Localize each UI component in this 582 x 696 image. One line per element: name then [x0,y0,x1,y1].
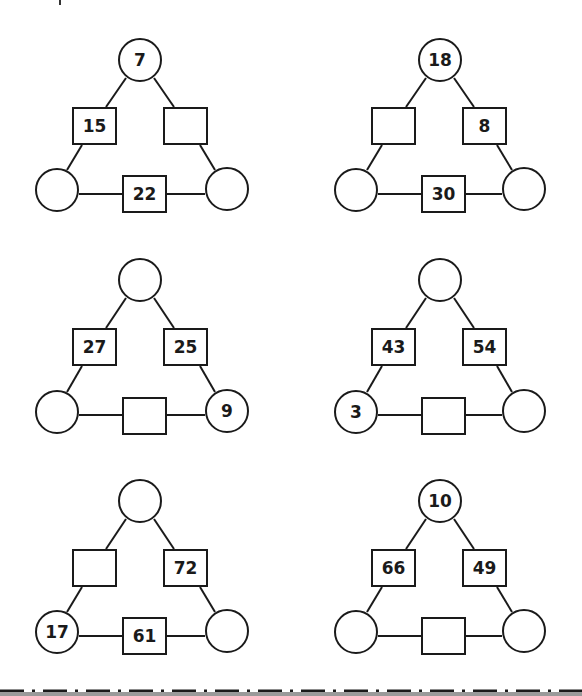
top-circle[interactable]: 7 [118,38,162,82]
bottom-right-circle[interactable] [502,389,546,433]
left-box[interactable]: 66 [371,549,416,587]
right-box[interactable] [163,107,208,145]
right-box[interactable]: 25 [163,328,208,366]
left-box[interactable]: 43 [371,328,416,366]
top-circle[interactable] [418,258,462,302]
bottom-right-circle[interactable] [502,167,546,211]
bottom-left-circle[interactable]: 17 [35,610,79,654]
page-edge-band [0,692,582,696]
bottom-right-circle[interactable]: 9 [205,389,249,433]
worksheet: 7 15 22 18 8 30 27 25 9 43 54 3 72 17 [0,0,582,696]
right-box[interactable]: 72 [163,549,208,587]
bottom-box[interactable] [421,617,466,655]
bottom-box[interactable]: 30 [421,175,466,213]
left-box[interactable]: 27 [72,328,117,366]
bottom-left-circle[interactable] [334,168,378,212]
right-box[interactable]: 54 [462,328,507,366]
bottom-box[interactable] [122,397,167,435]
left-box[interactable]: 15 [72,107,117,145]
top-circle[interactable]: 10 [418,479,462,523]
bottom-right-circle[interactable] [205,167,249,211]
bottom-box[interactable] [421,397,466,435]
top-circle[interactable] [118,258,162,302]
top-circle[interactable]: 18 [418,38,462,82]
left-box[interactable] [371,107,416,145]
bottom-left-circle[interactable] [35,390,79,434]
right-box[interactable]: 49 [462,549,507,587]
bottom-left-circle[interactable] [35,168,79,212]
right-box[interactable]: 8 [462,107,507,145]
bottom-box[interactable]: 22 [122,175,167,213]
left-box[interactable] [72,549,117,587]
bottom-left-circle[interactable] [334,610,378,654]
bottom-right-circle[interactable] [502,609,546,653]
bottom-left-circle[interactable]: 3 [334,390,378,434]
bottom-box[interactable]: 61 [122,617,167,655]
top-circle[interactable] [118,479,162,523]
bottom-right-circle[interactable] [205,609,249,653]
